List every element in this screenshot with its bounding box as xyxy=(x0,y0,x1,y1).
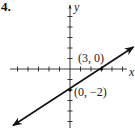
coordinate-graph: x y (3, 0) (0, −2) xyxy=(0,0,135,134)
point-label-x-intercept: (3, 0) xyxy=(78,51,104,65)
point-label-y-intercept: (0, −2) xyxy=(74,85,107,99)
point-x-intercept xyxy=(100,67,103,70)
x-axis: x xyxy=(10,65,135,79)
y-axis-label: y xyxy=(73,0,80,14)
x-axis-label: x xyxy=(128,65,135,79)
point-y-intercept xyxy=(68,88,71,91)
